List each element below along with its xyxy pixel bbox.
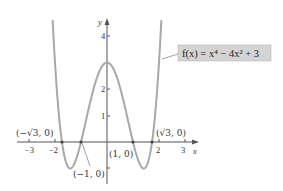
- y-tick-label: 1: [101, 111, 105, 121]
- y-tick-label: 4: [101, 31, 106, 41]
- annotation-leader: [82, 143, 90, 166]
- function-label-leader: [162, 54, 178, 59]
- y-axis-arrow-icon: [105, 18, 110, 25]
- zero-point: [131, 140, 134, 143]
- zero-point: [60, 140, 63, 143]
- annotation-neg1: (−1, 0): [73, 169, 105, 179]
- x-tick-label: 3: [181, 145, 185, 155]
- annotation-pos1: (1, 0): [109, 149, 133, 159]
- x-tick-label: 2: [156, 145, 160, 155]
- x-tick-label: −3: [25, 145, 34, 155]
- function-label: f(x) = x⁴ − 4x² + 3: [182, 48, 259, 60]
- chart: −3 −2 2 3 4 2 1 x y (−√3, 0) (−1, 0) (1,…: [0, 0, 283, 191]
- annotation-neg-sqrt3: (−√3, 0): [16, 128, 53, 138]
- y-tick-label: 2: [101, 84, 105, 94]
- x-axis-arrow-icon: [192, 140, 199, 145]
- zero-point: [150, 140, 153, 143]
- x-axis-label: x: [192, 146, 197, 156]
- y-axis-label: y: [97, 17, 102, 27]
- annotation-pos-sqrt3: (√3, 0): [156, 128, 186, 138]
- axes: [17, 18, 199, 184]
- x-tick-label: −2: [49, 145, 58, 155]
